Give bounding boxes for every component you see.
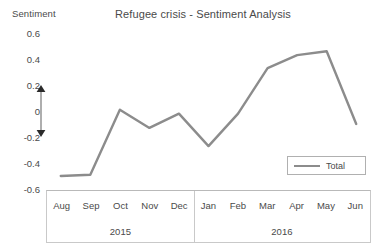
legend-label-total: Total xyxy=(326,161,345,171)
annotation-layer xyxy=(37,85,46,137)
legend-line-swatch-total xyxy=(294,165,320,167)
x-axis-month-mar: Mar xyxy=(253,191,282,219)
x-axis-month-jun: Jun xyxy=(341,191,370,219)
x-axis-month-nov: Nov xyxy=(135,191,164,219)
x-axis-month-sep: Sep xyxy=(76,191,105,219)
x-axis-month-oct: Oct xyxy=(106,191,135,219)
x-axis-month-apr: Apr xyxy=(282,191,311,219)
x-axis-table: AugSepOctNovDecJanFebMarAprMayJun 2015 2… xyxy=(46,190,371,243)
sentiment-line-chart: Sentiment Refugee crisis - Sentiment Ana… xyxy=(0,0,376,245)
x-axis-month-dec: Dec xyxy=(164,191,193,219)
x-axis-year-row: 2015 2016 xyxy=(47,219,370,243)
x-axis-month-feb: Feb xyxy=(223,191,252,219)
x-axis-month-may: May xyxy=(311,191,340,219)
legend[interactable]: Total xyxy=(287,156,366,175)
x-axis-year-2015: 2015 xyxy=(47,219,194,243)
x-axis-month-row: AugSepOctNovDecJanFebMarAprMayJun xyxy=(47,191,370,219)
x-axis-year-2016: 2016 xyxy=(194,219,370,243)
neutral-range-arrow xyxy=(37,85,46,137)
x-axis-month-jan: Jan xyxy=(194,191,223,219)
x-axis-month-aug: Aug xyxy=(47,191,76,219)
